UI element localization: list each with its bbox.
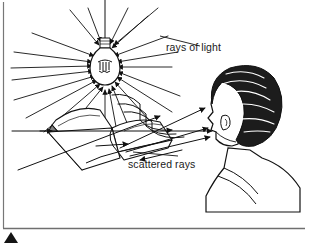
label-scattered-rays: scattered rays (128, 158, 195, 170)
corner-triangle-marker (4, 232, 18, 243)
figure-page: rays of light scattered rays (0, 0, 311, 244)
optics-diagram-illustration (0, 0, 311, 244)
label-rays-of-light: rays of light (166, 41, 221, 53)
observer-head (206, 66, 300, 212)
